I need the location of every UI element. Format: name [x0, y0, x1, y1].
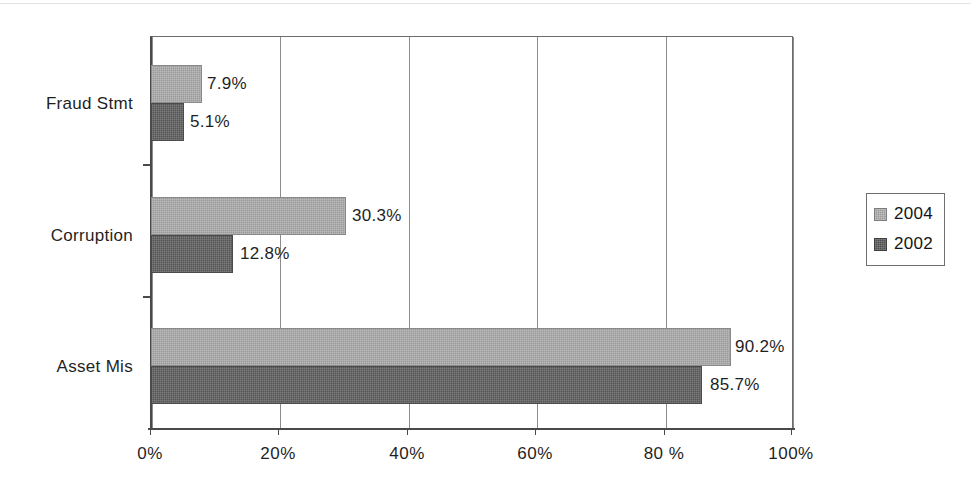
gridline-100: [793, 37, 794, 428]
bar-corruption-2002[interactable]: [151, 235, 233, 273]
chart-legend: 2004 2002: [866, 193, 945, 266]
category-label-corruption: Corruption: [0, 226, 133, 246]
legend-label-2004: 2004: [894, 204, 933, 224]
x-axis-label-20: 20%: [260, 444, 296, 464]
bar-corruption-2004[interactable]: [151, 197, 346, 235]
y-axis-tick-2: [143, 296, 151, 298]
value-label-corruption-2004: 30.3%: [352, 206, 402, 226]
bar-asset-mis-2004[interactable]: [151, 328, 731, 366]
category-label-asset-mis: Asset Mis: [0, 357, 133, 377]
x-axis-label-60: 60%: [517, 444, 553, 464]
legend-swatch-2004-icon: [874, 208, 887, 221]
x-axis-label-100: 100%: [768, 444, 813, 464]
x-axis-label-80: 80 %: [644, 444, 685, 464]
y-axis-tick-1: [143, 164, 151, 166]
horizontal-bar-chart: 7.9% 5.1% 30.3% 12.8% 90.2% 85.7% Fraud …: [0, 0, 971, 496]
x-axis-tick-20: [278, 428, 279, 435]
value-label-asset-mis-2004: 90.2%: [735, 337, 785, 357]
legend-item-2004[interactable]: 2004: [874, 204, 933, 224]
value-label-asset-mis-2002: 85.7%: [710, 375, 760, 395]
legend-swatch-2002-icon: [874, 238, 887, 251]
x-axis-tick-80: [664, 428, 665, 435]
category-label-fraud-stmt: Fraud Stmt: [0, 94, 133, 114]
x-axis-tick-0: [150, 428, 151, 435]
x-axis-tick-40: [407, 428, 408, 435]
bar-fraud-stmt-2002[interactable]: [151, 103, 184, 141]
legend-item-2002[interactable]: 2002: [874, 234, 933, 254]
value-label-corruption-2002: 12.8%: [240, 244, 290, 264]
bar-asset-mis-2002[interactable]: [151, 366, 702, 404]
legend-label-2002: 2002: [894, 234, 933, 254]
bar-fraud-stmt-2004[interactable]: [151, 65, 202, 103]
x-axis-label-0: 0%: [137, 444, 163, 464]
x-axis-tick-100: [791, 428, 792, 435]
value-label-fraud-stmt-2002: 5.1%: [190, 112, 230, 132]
x-axis-line: [148, 428, 795, 430]
x-axis-label-40: 40%: [389, 444, 425, 464]
x-axis-tick-60: [535, 428, 536, 435]
value-label-fraud-stmt-2004: 7.9%: [207, 74, 247, 94]
